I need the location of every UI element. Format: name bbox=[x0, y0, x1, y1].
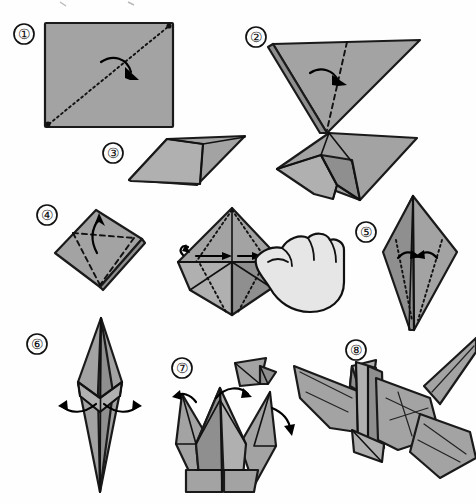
step-8-label: ⑧ bbox=[350, 343, 363, 358]
step-7-number: ⑦ bbox=[172, 358, 192, 378]
step-4-hand-action-figure bbox=[178, 208, 344, 315]
step-8-figure bbox=[294, 338, 476, 478]
step-1-figure bbox=[45, 23, 173, 127]
step-3-result-figure bbox=[277, 133, 417, 200]
step-7-label: ⑦ bbox=[176, 361, 189, 376]
step-6-number: ⑥ bbox=[27, 334, 47, 354]
step-4-number: ④ bbox=[37, 205, 57, 225]
step-2-number: ② bbox=[246, 27, 266, 47]
step-3-figure bbox=[129, 136, 245, 185]
step-5-number: ⑤ bbox=[356, 222, 376, 242]
step-4-label: ④ bbox=[41, 208, 54, 223]
origami-instruction-diagram: ① ② ③ bbox=[0, 0, 476, 503]
step-3-label: ③ bbox=[107, 146, 120, 161]
step-5-figure bbox=[383, 196, 457, 330]
instruction-sheet: ① ② ③ bbox=[0, 0, 476, 503]
step-8-number: ⑧ bbox=[346, 340, 366, 360]
step-7-figure bbox=[172, 388, 295, 492]
step-4-figure bbox=[55, 210, 145, 290]
step-3-number: ③ bbox=[103, 143, 123, 163]
step-5-label: ⑤ bbox=[360, 225, 373, 240]
step-7-head-inset-figure bbox=[235, 358, 276, 386]
step-6-figure bbox=[58, 318, 142, 492]
step-2-figure bbox=[268, 40, 420, 133]
step-1-number: ① bbox=[14, 24, 34, 44]
step-2-label: ② bbox=[250, 30, 263, 45]
step-1-label: ① bbox=[18, 27, 31, 42]
top-edge-artifacts bbox=[60, 2, 134, 6]
step-6-label: ⑥ bbox=[31, 337, 44, 352]
